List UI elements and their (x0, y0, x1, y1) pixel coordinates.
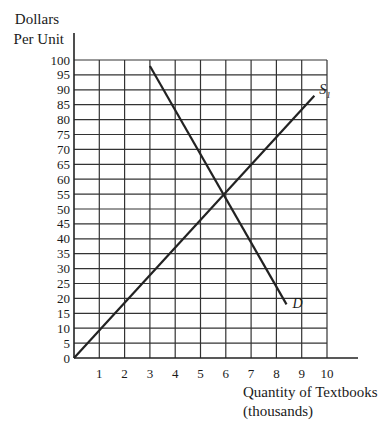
y-tick-label: 50 (57, 202, 70, 217)
tick-labels: 0510152025303540455055606570758085909510… (51, 53, 334, 382)
y-tick-label: 45 (57, 216, 70, 231)
y-tick-label: 30 (57, 261, 70, 276)
axes (74, 33, 358, 358)
y-tick-label: 60 (57, 172, 70, 187)
supply-demand-chart: 0510152025303540455055606570758085909510… (0, 0, 382, 430)
y-tick-label: 20 (57, 291, 70, 306)
x-tick-label: 10 (321, 366, 334, 381)
x-axis-label-line2: (thousands) (243, 401, 313, 421)
x-tick-label: 2 (121, 366, 128, 381)
curve-label-d: D (292, 296, 303, 311)
x-tick-label: 7 (248, 366, 255, 381)
y-tick-label: 80 (57, 112, 70, 127)
x-tick-label: 6 (223, 366, 230, 381)
y-tick-label: 0 (64, 351, 71, 366)
x-tick-label: 9 (298, 366, 305, 381)
grid-lines (74, 60, 327, 358)
curves: S1D (74, 66, 331, 358)
x-tick-label: 8 (273, 366, 280, 381)
x-tick-label: 5 (197, 366, 204, 381)
y-tick-label: 95 (57, 67, 70, 82)
y-tick-label: 10 (57, 321, 70, 336)
y-tick-label: 15 (57, 306, 70, 321)
y-tick-label: 40 (57, 231, 70, 246)
x-axis-label-line1: Quantity of Textbooks (243, 382, 378, 402)
y-tick-label: 90 (57, 82, 70, 97)
y-tick-label: 75 (57, 127, 70, 142)
y-tick-label: 100 (51, 53, 71, 68)
y-tick-label: 65 (57, 157, 70, 172)
x-tick-label: 3 (147, 366, 154, 381)
y-tick-label: 55 (57, 187, 70, 202)
curve-label-s1: S1 (319, 82, 331, 100)
y-tick-label: 35 (57, 246, 70, 261)
x-tick-label: 1 (96, 366, 103, 381)
y-tick-label: 85 (57, 97, 70, 112)
x-tick-label: 4 (172, 366, 179, 381)
y-tick-label: 25 (57, 276, 70, 291)
y-tick-label: 5 (64, 336, 71, 351)
y-tick-label: 70 (57, 142, 70, 157)
